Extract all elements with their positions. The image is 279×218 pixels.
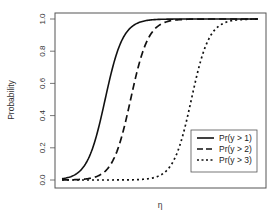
y-axis-label: Probability bbox=[6, 79, 16, 119]
legend-label: Pr(y > 3) bbox=[219, 155, 252, 165]
y-tick-label: 0.4 bbox=[38, 109, 47, 121]
legend-label: Pr(y > 2) bbox=[219, 144, 252, 154]
y-axis: 0.00.20.40.60.81.0 bbox=[38, 13, 55, 186]
y-tick-label: 0.6 bbox=[38, 77, 47, 89]
legend: Pr(y > 1)Pr(y > 2)Pr(y > 3) bbox=[191, 130, 257, 172]
x-axis-label: η bbox=[158, 200, 163, 210]
y-tick-label: 0.8 bbox=[38, 45, 47, 57]
y-tick-label: 0.2 bbox=[38, 142, 47, 154]
y-tick-label: 0.0 bbox=[38, 174, 47, 186]
legend-label: Pr(y > 1) bbox=[219, 133, 252, 143]
probability-chart: 0.00.20.40.60.81.0 Probability η Pr(y > … bbox=[0, 0, 279, 218]
y-tick-label: 1.0 bbox=[38, 13, 47, 25]
